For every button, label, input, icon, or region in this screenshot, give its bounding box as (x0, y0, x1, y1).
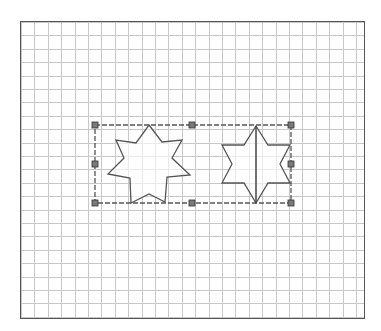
handle-w[interactable] (92, 161, 98, 167)
handle-s[interactable] (189, 200, 195, 206)
handle-sw[interactable] (92, 200, 98, 206)
handle-se[interactable] (288, 200, 294, 206)
handle-nw[interactable] (92, 122, 98, 128)
handle-ne[interactable] (288, 122, 294, 128)
handle-e[interactable] (288, 161, 294, 167)
shape-layer (0, 0, 381, 331)
handle-n[interactable] (189, 122, 195, 128)
seven-point-star-shape[interactable] (108, 125, 190, 203)
